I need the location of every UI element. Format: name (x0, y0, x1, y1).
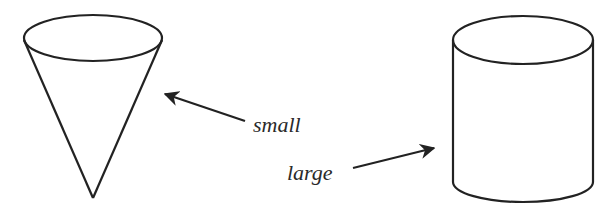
cylinder-shape (453, 16, 593, 202)
small-arrow (165, 94, 245, 121)
diagram-svg: small large (0, 0, 602, 212)
large-arrow (353, 148, 434, 168)
diagram-canvas: small large (0, 0, 602, 212)
small-label: small (253, 112, 301, 137)
large-label: large (287, 160, 333, 185)
cone-shape (24, 15, 162, 198)
